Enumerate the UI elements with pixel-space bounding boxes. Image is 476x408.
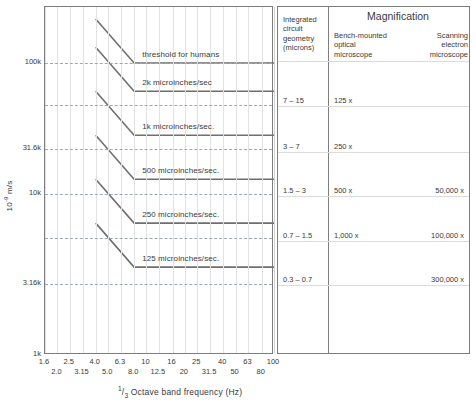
table-header-separator [278, 61, 469, 62]
x-axis-title-text: Octave band frequency (Hz) [128, 387, 242, 397]
frequency-gridline [262, 7, 263, 353]
x-axis-tick-label: 31.5 [202, 367, 217, 376]
x-axis-tick-label: 6.3 [115, 357, 125, 366]
table-header-electron-microscope: Scanning electron microscope [410, 31, 468, 59]
x-axis-tick-label: 10 [141, 357, 149, 366]
table-cell-geometry: 1.5 – 3 [283, 186, 306, 195]
table-cell-optical-magnification: 1,000 x [334, 231, 359, 240]
y-axis-title-unit: m/s [5, 181, 14, 197]
table-row-separator [278, 196, 469, 197]
table-cell-geometry: 0.7 – 1.5 [283, 231, 312, 240]
chart-plot-area: threshold for humans2k microinches/sec1k… [44, 6, 273, 354]
x-axis-tick-label: 50 [230, 367, 238, 376]
frequency-gridline [108, 7, 109, 353]
curve-label: 2k microinches/sec [142, 78, 212, 87]
table-cell-optical-magnification: 250 x [334, 142, 352, 151]
velocity-gridline [45, 105, 272, 106]
y-axis-title-exponent: -9 [3, 196, 9, 202]
table-cell-geometry: 3 – 7 [283, 142, 300, 151]
velocity-gridline [45, 149, 272, 150]
table-cell-geometry: 7 – 15 [283, 96, 304, 105]
table-column-divider [328, 7, 329, 353]
frequency-gridline [57, 7, 58, 353]
x-axis-tick-label: 20 [180, 367, 188, 376]
x-axis-tick-label: 8.0 [128, 367, 138, 376]
x-axis-title-numerator: 1 [118, 385, 122, 392]
velocity-gridline [45, 284, 272, 285]
x-axis-tick-label: 63 [243, 357, 251, 366]
y-axis-title: 10-9 m/s [3, 181, 14, 212]
velocity-gridline [45, 238, 272, 239]
x-axis-tick-label: 4.0 [90, 357, 100, 366]
table-row-separator [278, 241, 469, 242]
table-header-optical-microscope: Bench-mounted optical microscope [334, 31, 396, 59]
table-cell-electron-magnification: 100,000 x [431, 231, 464, 240]
x-axis-tick-label: 40 [218, 357, 226, 366]
table-row-separator [278, 285, 469, 286]
table-row-separator [278, 152, 469, 153]
curve-label: 125 microinches/sec. [142, 254, 219, 263]
frequency-gridline [223, 7, 224, 353]
y-axis-tick-label: 3.16k [23, 279, 41, 287]
frequency-gridline [274, 7, 275, 353]
table-header-magnification: Magnification [328, 12, 468, 21]
frequency-gridline [248, 7, 249, 353]
velocity-gridline [45, 63, 272, 64]
y-axis-tick-label: 31.6k [23, 144, 41, 152]
x-axis-tick-label: 100 [267, 357, 280, 366]
x-axis-tick-label: 12.5 [151, 367, 166, 376]
curve-label: 500 microinches/sec. [142, 166, 219, 175]
table-cell-optical-magnification: 500 x [334, 186, 352, 195]
y-axis-tick-label: 10k [29, 189, 41, 197]
frequency-gridline [70, 7, 71, 353]
x-axis-tick-label: 2.5 [63, 357, 73, 366]
frequency-gridline [121, 7, 122, 353]
table-cell-optical-magnification: 125 x [334, 96, 352, 105]
curve-label: 250 microinches/sec. [142, 210, 219, 219]
table-header-geometry: Integrated circuit geometry (microns) [283, 15, 329, 53]
x-axis-tick-label: 80 [256, 367, 264, 376]
frequency-gridline [96, 7, 97, 353]
x-axis-tick-label: 3.15 [74, 367, 89, 376]
table-cell-electron-magnification: 300,000 x [431, 275, 464, 284]
frequency-gridline [83, 7, 84, 353]
x-axis-tick-label: 25 [192, 357, 200, 366]
table-row-separator [278, 106, 469, 107]
y-axis-title-base: 10 [5, 202, 14, 211]
y-axis-tick-label: 100k [25, 58, 41, 66]
frequency-gridline [134, 7, 135, 353]
x-axis-tick-label: 16 [167, 357, 175, 366]
table-cell-electron-magnification: 50,000 x [435, 186, 464, 195]
frequency-gridline [45, 7, 46, 353]
x-axis-tick-label: 2.0 [51, 367, 61, 376]
x-axis-title-fraction: 1/3 [118, 387, 128, 397]
curve-label: 1k microinches/sec. [142, 122, 214, 131]
curve-label: threshold for humans [142, 50, 219, 59]
frequency-gridline [236, 7, 237, 353]
x-axis-tick-label: 1.6 [39, 357, 49, 366]
x-axis-title: 1/3 Octave band frequency (Hz) [118, 385, 242, 399]
x-axis-tick-label: 5.0 [102, 367, 112, 376]
velocity-gridline [45, 194, 272, 195]
x-axis-tick-labels: 1.62.54.06.310162540631002.03.155.08.012… [0, 356, 476, 382]
table-cell-geometry: 0.3 – 0.7 [283, 275, 312, 284]
reference-table: Integrated circuit geometry (microns) Ma… [277, 6, 470, 354]
